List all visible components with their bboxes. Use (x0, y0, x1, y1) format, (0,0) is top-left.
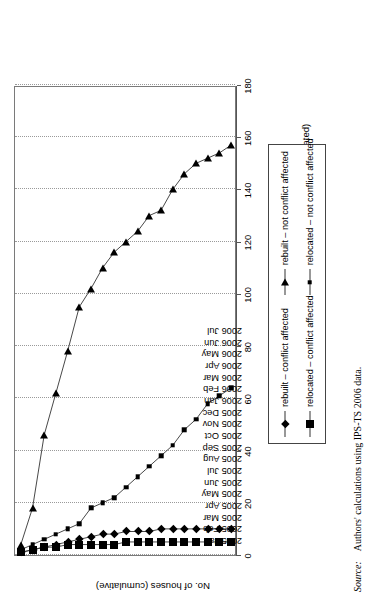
source-label: Source: (352, 561, 363, 592)
data-point-marker (169, 538, 177, 546)
legend-marker-sample (304, 269, 316, 295)
category-label: 2006 May (202, 349, 242, 359)
value-axis-tick (237, 137, 241, 138)
data-point-marker (134, 538, 142, 546)
chart-figure: 2005 Jan2005 Feb2005 Mar2005 Apr2005 May… (0, 0, 390, 602)
data-point-marker (134, 228, 142, 235)
value-axis-label: 180 (242, 67, 253, 105)
data-point-marker (182, 427, 187, 432)
data-point-marker (135, 474, 140, 479)
data-point-marker (100, 500, 105, 505)
data-point-marker (145, 212, 153, 219)
value-axis-label: 40 (242, 433, 253, 471)
data-point-marker (194, 417, 199, 422)
data-point-marker (157, 207, 165, 214)
data-point-marker (64, 541, 72, 549)
legend-label: relocated – conflict affected (305, 295, 315, 407)
legend-marker-icon (281, 420, 289, 428)
data-point-marker (99, 264, 107, 271)
y-axis-title: No. of houses (cumulative) (96, 581, 210, 592)
data-point-marker (52, 543, 60, 551)
legend: rebuilt – conflict affectedrebuilt – not… (268, 144, 326, 444)
data-point-marker (192, 160, 200, 167)
legend-marker-icon (306, 420, 314, 428)
data-point-marker (145, 538, 153, 546)
data-point-marker (147, 464, 152, 469)
plot-inner (15, 87, 235, 555)
legend-marker-sample (279, 269, 291, 295)
data-point-marker (77, 521, 82, 526)
legend-item: rebuilt – conflict affected (279, 295, 291, 437)
legend-item: relocated – not conflict affected (304, 138, 316, 295)
category-label: 2005 Feb (203, 524, 242, 534)
data-point-marker (87, 285, 95, 292)
data-point-marker (65, 527, 70, 532)
category-label: 2005 Nov (203, 419, 242, 429)
category-label: 2005 Aug (203, 454, 242, 464)
legend-label: rebuilt – not conflict affected (280, 151, 290, 265)
legend-label: relocated – not conflict affected (305, 138, 315, 265)
data-point-marker (29, 505, 37, 512)
legend-marker-sample (304, 411, 316, 437)
value-axis-label: 160 (242, 119, 253, 157)
data-point-marker (19, 547, 24, 552)
data-point-marker (215, 149, 223, 156)
data-point-marker (110, 249, 118, 256)
data-point-marker (180, 538, 188, 546)
source-note: Source:Authors' calculations using IPS-T… (352, 367, 363, 592)
data-point-marker (124, 485, 129, 490)
value-axis-label: 0 (242, 537, 253, 575)
data-point-marker (87, 541, 95, 549)
legend-item: rebuilt – not conflict affected (279, 138, 291, 295)
source-text: Authors' calculations using IPS-TS 2006 … (352, 367, 363, 552)
value-axis-tick (237, 189, 241, 190)
value-axis-label: 60 (242, 380, 253, 418)
data-point-marker (89, 506, 94, 511)
plot-area (14, 86, 236, 556)
data-point-marker (54, 532, 59, 537)
legend-marker-sample (279, 411, 291, 437)
category-label: 2005 Oct (205, 431, 242, 441)
value-axis-tick (237, 555, 241, 556)
data-point-marker (112, 495, 117, 500)
value-axis-label: 120 (242, 224, 253, 262)
category-label: 2005 Mar (203, 513, 242, 523)
data-point-marker (180, 170, 188, 177)
data-point-marker (99, 541, 107, 549)
data-point-marker (40, 431, 48, 438)
category-label: 2006 Mar (203, 373, 242, 383)
value-axis-label: 80 (242, 328, 253, 366)
data-point-marker (30, 542, 35, 547)
data-point-marker (29, 546, 37, 554)
legend-marker-icon (281, 279, 289, 286)
series-line (21, 388, 231, 550)
rotated-figure-stage: 2005 Jan2005 Feb2005 Mar2005 Apr2005 May… (0, 0, 390, 602)
value-axis-label: 20 (242, 485, 253, 523)
data-point-marker (64, 348, 72, 355)
value-axis-tick (237, 294, 241, 295)
data-point-marker (110, 541, 118, 549)
value-axis-label: 140 (242, 171, 253, 209)
data-point-marker (204, 155, 212, 162)
data-point-marker (40, 543, 48, 551)
data-point-marker (75, 541, 83, 549)
legend-marker-icon (307, 280, 312, 285)
legend-item: relocated – conflict affected (304, 295, 316, 437)
value-axis-tick (237, 503, 241, 504)
data-point-marker (42, 537, 47, 542)
value-axis-label: 100 (242, 276, 253, 314)
data-point-marker (157, 538, 165, 546)
value-axis-tick (237, 346, 241, 347)
category-label: 2006 Feb (203, 384, 242, 394)
value-axis-tick (237, 398, 241, 399)
data-point-marker (227, 142, 235, 149)
category-label: 2005 Jan (204, 536, 242, 546)
category-label: 2005 Jun (204, 478, 242, 488)
value-axis-tick (237, 85, 241, 86)
category-label: 2006 Apr (205, 361, 242, 371)
data-point-marker (170, 443, 175, 448)
category-label: 2005 Dec (203, 408, 242, 418)
legend-grid: rebuilt – conflict affectedrebuilt – not… (269, 145, 325, 443)
data-point-marker (159, 453, 164, 458)
data-point-marker (75, 303, 83, 310)
